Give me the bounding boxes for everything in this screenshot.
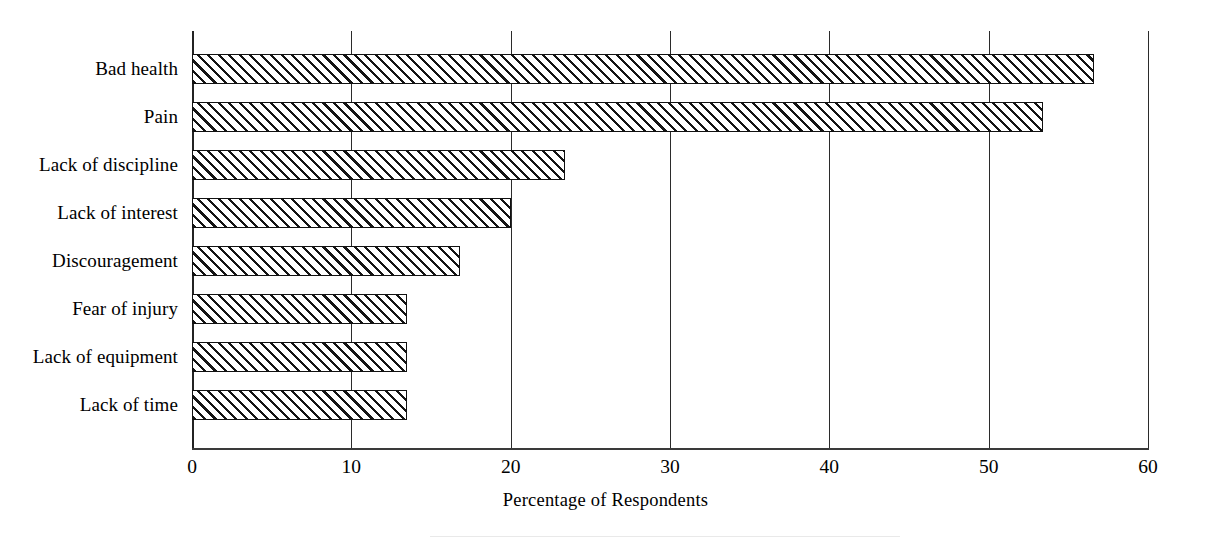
category-label: Lack of time [0, 381, 178, 429]
x-tick-label: 10 [321, 456, 381, 478]
bar [192, 294, 407, 324]
gridline-60 [1148, 31, 1149, 449]
bar [192, 246, 460, 276]
x-tick-label: 0 [162, 456, 222, 478]
x-tick-label: 30 [640, 456, 700, 478]
category-label: Discouragement [0, 237, 178, 285]
category-label: Lack of discipline [0, 141, 178, 189]
bar [192, 390, 407, 420]
bar-row [192, 45, 1148, 93]
bars-layer [192, 31, 1148, 449]
bar-row [192, 381, 1148, 429]
scan-artifact [430, 536, 900, 537]
bar-row [192, 237, 1148, 285]
category-label: Lack of equipment [0, 333, 178, 381]
bar [192, 54, 1094, 84]
bar [192, 342, 407, 372]
x-tick-label: 60 [1118, 456, 1178, 478]
category-label: Lack of interest [0, 189, 178, 237]
bar-chart: Bad healthPainLack of disciplineLack of … [0, 0, 1211, 542]
bar [192, 150, 565, 180]
bar-row [192, 141, 1148, 189]
bar [192, 198, 511, 228]
bar [192, 102, 1043, 132]
plot-area [192, 31, 1148, 449]
x-tick-label: 50 [959, 456, 1019, 478]
category-label: Bad health [0, 45, 178, 93]
category-label: Fear of injury [0, 285, 178, 333]
x-tick-label: 40 [799, 456, 859, 478]
bar-row [192, 285, 1148, 333]
bar-row [192, 333, 1148, 381]
x-axis-title: Percentage of Respondents [0, 490, 1211, 511]
x-axis-line [192, 448, 1149, 450]
x-tick-label: 20 [481, 456, 541, 478]
bar-row [192, 189, 1148, 237]
category-label: Pain [0, 93, 178, 141]
y-axis-category-labels: Bad healthPainLack of disciplineLack of … [0, 31, 178, 449]
bar-row [192, 93, 1148, 141]
